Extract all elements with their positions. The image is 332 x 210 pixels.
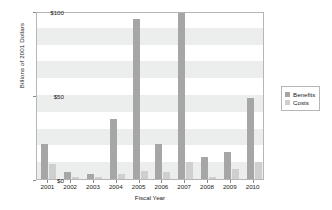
bar-costs-2004[interactable] <box>118 174 125 179</box>
x-tick-mark <box>70 180 71 183</box>
bar-benefits-2004[interactable] <box>110 119 117 179</box>
x-tick-mark <box>161 180 162 183</box>
x-tick-mark <box>139 180 140 183</box>
legend-entry-benefits[interactable]: Benefits <box>285 91 315 98</box>
y-tick-label: $100 <box>24 9 64 16</box>
x-tick-label-2009: 2009 <box>218 183 242 190</box>
x-tick-label-2004: 2004 <box>104 183 128 190</box>
bar-benefits-2003[interactable] <box>87 174 94 179</box>
bar-benefits-2006[interactable] <box>155 144 162 179</box>
bar-costs-2010[interactable] <box>255 162 262 179</box>
bar-chart-figure: Billions of 2001 Dollars $0$50$100 20012… <box>0 0 332 210</box>
legend-entry-costs[interactable]: Costs <box>285 99 315 106</box>
x-tick-label-2010: 2010 <box>241 183 265 190</box>
bar-benefits-2001[interactable] <box>41 144 48 179</box>
bar-group <box>199 13 217 179</box>
x-tick-label-2008: 2008 <box>195 183 219 190</box>
bar-costs-2003[interactable] <box>95 177 102 179</box>
bar-costs-2009[interactable] <box>232 169 239 179</box>
bar-benefits-2005[interactable] <box>133 19 140 179</box>
bar-costs-2002[interactable] <box>72 177 79 179</box>
y-tick-mark <box>33 180 36 181</box>
bars-layer <box>37 13 263 179</box>
y-axis-title: Billions of 2001 Dollars <box>18 0 25 121</box>
bar-costs-2008[interactable] <box>209 177 216 179</box>
x-tick-mark <box>184 180 185 183</box>
x-tick-mark <box>93 180 94 183</box>
legend-label-costs: Costs <box>293 99 309 106</box>
bar-benefits-2002[interactable] <box>64 172 71 179</box>
x-tick-label-2002: 2002 <box>58 183 82 190</box>
bar-group <box>62 13 80 179</box>
x-tick-mark <box>207 180 208 183</box>
x-tick-mark <box>116 180 117 183</box>
bar-group <box>108 13 126 179</box>
y-tick-mark <box>33 12 36 13</box>
chart-legend: Benefits Costs <box>281 86 320 111</box>
y-tick-label: $50 <box>24 93 64 100</box>
x-tick-mark <box>253 180 254 183</box>
legend-swatch-benefits-icon <box>285 92 290 97</box>
bar-group <box>176 13 194 179</box>
x-tick-label-2005: 2005 <box>127 183 151 190</box>
x-tick-label-2006: 2006 <box>149 183 173 190</box>
bar-group <box>245 13 263 179</box>
x-tick-label-2007: 2007 <box>172 183 196 190</box>
bar-group <box>131 13 149 179</box>
bar-benefits-2009[interactable] <box>224 152 231 179</box>
legend-label-benefits: Benefits <box>293 91 315 98</box>
bar-costs-2005[interactable] <box>141 171 148 179</box>
bar-costs-2006[interactable] <box>163 172 170 179</box>
legend-swatch-costs-icon <box>285 100 290 105</box>
x-tick-label-2001: 2001 <box>35 183 59 190</box>
x-tick-mark <box>230 180 231 183</box>
bar-group <box>85 13 103 179</box>
bar-benefits-2008[interactable] <box>201 157 208 179</box>
bar-benefits-2007[interactable] <box>178 13 185 179</box>
bar-group <box>222 13 240 179</box>
x-tick-label-2003: 2003 <box>81 183 105 190</box>
x-tick-mark <box>47 180 48 183</box>
bar-benefits-2010[interactable] <box>247 98 254 179</box>
bar-costs-2007[interactable] <box>186 162 193 179</box>
x-axis-title: Fiscal Year <box>36 194 264 201</box>
y-tick-mark <box>33 96 36 97</box>
plot-area <box>36 12 264 180</box>
bar-group <box>153 13 171 179</box>
